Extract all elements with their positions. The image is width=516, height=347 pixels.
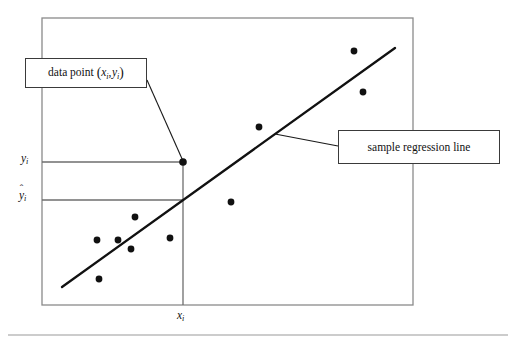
data-point bbox=[167, 235, 174, 242]
leader-line-regression bbox=[275, 134, 338, 146]
callout-regression-label: sample regression line bbox=[368, 141, 471, 154]
callout-data-point-prefix: data point bbox=[48, 66, 94, 78]
circumflex-accent-icon: ˆ bbox=[20, 184, 24, 195]
data-point bbox=[94, 237, 101, 244]
axis-label-y-fitted: ˆyi bbox=[19, 189, 26, 203]
data-point bbox=[228, 199, 235, 206]
data-point bbox=[96, 276, 103, 283]
data-point bbox=[360, 89, 367, 96]
axis-label-y-fitted-sub: i bbox=[24, 194, 26, 203]
axis-label-x-value: xi bbox=[177, 309, 184, 323]
callout-data-point: data point (xi,yi) bbox=[25, 58, 147, 88]
axis-label-y-observed-sub: i bbox=[26, 157, 28, 166]
highlighted-data-point bbox=[179, 158, 187, 166]
figure-canvas bbox=[0, 0, 516, 347]
figure-container: data point (xi,yi) sample regression lin… bbox=[0, 0, 516, 347]
callout-sample-regression-line: sample regression line bbox=[338, 130, 500, 164]
axis-label-y-fitted-hatwrap: ˆy bbox=[19, 189, 24, 201]
data-point bbox=[256, 124, 263, 131]
axis-label-y-observed: yi bbox=[21, 152, 28, 166]
axis-label-x-value-sub: i bbox=[182, 314, 184, 323]
close-paren: ) bbox=[119, 65, 124, 80]
data-point bbox=[132, 214, 139, 221]
callout-data-point-text: data point (xi,yi) bbox=[48, 66, 124, 81]
data-point bbox=[351, 48, 358, 55]
data-point bbox=[128, 246, 135, 253]
data-point bbox=[115, 237, 122, 244]
leader-line-data-point bbox=[147, 80, 183, 161]
